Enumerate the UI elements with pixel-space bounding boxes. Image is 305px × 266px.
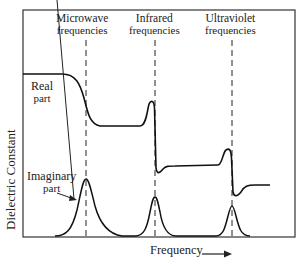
y-axis-label: Dielectric Constant bbox=[3, 129, 19, 230]
imaginary-pointer-arrowhead bbox=[69, 195, 77, 201]
ultraviolet-label-line1: Ultraviolet bbox=[205, 12, 255, 24]
ultraviolet-label-line2: frequencies bbox=[205, 24, 256, 36]
real-part-label-line1: Real bbox=[31, 79, 53, 93]
microwave-label: Microwave frequencies bbox=[56, 12, 108, 36]
ultraviolet-label: Ultraviolet frequencies bbox=[205, 12, 256, 36]
microwave-label-line1: Microwave bbox=[56, 12, 108, 24]
infrared-label-line1: Infrared bbox=[136, 12, 173, 24]
dielectric-constant-diagram: Microwave frequencies Infrared frequenci… bbox=[0, 0, 305, 266]
real-part-label-line2: part bbox=[31, 92, 53, 104]
imaginary-part-label-line2: part bbox=[27, 182, 76, 194]
imaginary-part-label-line1: Imaginary bbox=[27, 169, 76, 183]
frequency-arrow-icon bbox=[224, 251, 232, 258]
x-axis-label: Frequency bbox=[150, 243, 203, 258]
imaginary-part-label: Imaginary part bbox=[27, 170, 76, 194]
infrared-label: Infrared frequencies bbox=[129, 12, 180, 36]
plot-frame bbox=[23, 10, 295, 237]
real-part-label: Real part bbox=[31, 80, 53, 104]
plot-svg bbox=[0, 0, 305, 266]
infrared-label-line2: frequencies bbox=[129, 24, 180, 36]
microwave-label-line2: frequencies bbox=[56, 24, 108, 36]
imaginary-part-curve bbox=[55, 179, 250, 236]
